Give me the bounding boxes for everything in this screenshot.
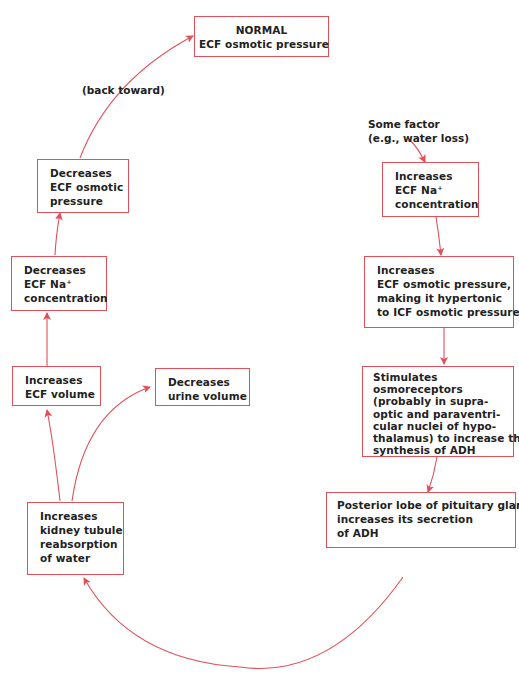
arrow-kidney-to-ecfvol	[47, 410, 60, 501]
node-text: Some factor	[368, 117, 469, 131]
node-text: making it hypertonic	[377, 291, 505, 305]
back-toward-label: (back toward)	[82, 83, 165, 97]
node-text: Decreases	[50, 166, 120, 180]
node-text: ECF osmotic pressure,	[377, 277, 505, 291]
node-text: Posterior lobe of pituitary gland	[337, 498, 511, 512]
node-text: pressure	[50, 194, 120, 208]
arrow-na-to-osm	[436, 217, 441, 255]
adh-feedback-diagram: NORMAL ECF osmotic pressure (back toward…	[0, 0, 519, 675]
node-decreases-ecf-osmotic-pressure: Decreases ECF osmotic pressure	[37, 159, 129, 213]
node-text: (probably in supra-	[373, 395, 509, 407]
arrow-decosm-to-normal	[80, 36, 193, 158]
arrow-posterior-to-kidney	[84, 577, 403, 668]
node-text: synthesis of ADH	[373, 444, 509, 456]
node-text: Increases	[40, 509, 115, 523]
node-text: ECF osmotic pressure	[199, 37, 324, 51]
arrow-stim-to-posterior	[428, 457, 437, 492]
node-posterior-pituitary: Posterior lobe of pituitary gland increa…	[326, 492, 516, 548]
node-increases-ecf-volume: Increases ECF volume	[12, 366, 101, 406]
node-text: osmoreceptors	[373, 383, 509, 395]
node-text: to ICF osmotic pressure	[377, 305, 505, 319]
node-increases-ecf-osmotic-pressure: Increases ECF osmotic pressure, making i…	[364, 256, 514, 328]
node-increases-ecf-na: Increases ECF Na⁺ concentration	[382, 162, 479, 217]
node-text: of water	[40, 551, 115, 565]
node-text: cular nuclei of hypo-	[373, 420, 509, 432]
node-text: urine volume	[168, 389, 241, 403]
node-text: optic and paraventri-	[373, 408, 509, 420]
node-text: Stimulates	[373, 371, 509, 383]
arrow-na-to-decosm	[55, 213, 60, 255]
node-text: thalamus) to increase their	[373, 432, 509, 444]
node-text: concentration	[395, 197, 470, 211]
node-increases-kidney-reabsorption: Increases kidney tubule reabsorption of …	[27, 502, 124, 575]
node-text: (e.g., water loss)	[368, 131, 469, 145]
node-text: Increases	[25, 373, 92, 387]
node-text: Increases	[377, 263, 505, 277]
node-text: of ADH	[337, 526, 511, 540]
node-text: Increases	[395, 169, 470, 183]
node-text: Decreases	[168, 375, 241, 389]
node-stimulates-osmoreceptors: Stimulates osmoreceptors (probably in su…	[362, 366, 514, 457]
node-normal-ecf-osmotic-pressure: NORMAL ECF osmotic pressure	[194, 16, 329, 57]
node-text: ECF Na⁺	[395, 183, 470, 197]
node-text: Decreases	[24, 263, 98, 277]
node-decreases-urine-volume: Decreases urine volume	[155, 368, 250, 406]
node-text: NORMAL	[199, 23, 324, 37]
node-text: increases its secretion	[337, 512, 511, 526]
node-text: ECF Na⁺	[24, 277, 98, 291]
node-text: ECF osmotic	[50, 180, 120, 194]
node-text: reabsorption	[40, 537, 115, 551]
node-text: concentration	[24, 291, 98, 305]
some-factor-label: Some factor (e.g., water loss)	[368, 117, 469, 145]
node-decreases-ecf-na: Decreases ECF Na⁺ concentration	[11, 256, 107, 311]
node-text: ECF volume	[25, 387, 92, 401]
node-text: kidney tubule	[40, 523, 115, 537]
